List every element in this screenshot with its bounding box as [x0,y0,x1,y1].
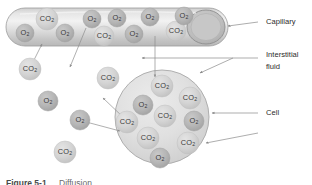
molecule-co2: CO2 [151,75,173,97]
diagram-canvas: CO2O2O2O2O2CO2O2O2CO2O2CO2O2CO2O2CO2CO2O… [0,0,312,185]
molecule-co2: CO2 [54,141,76,163]
molecule-o2: O2 [83,10,101,28]
leader-cell-co2 [206,133,258,143]
label-capillary: Capillary [266,17,296,26]
molecule-o2: O2 [175,7,193,25]
molecule-co2: CO2 [97,67,119,89]
capillary-lumen [191,14,221,41]
molecule-o2: O2 [141,8,159,26]
molecule-o2: O2 [150,148,170,168]
molecule-o2: O2 [38,91,58,111]
molecule-o2: O2 [125,25,143,43]
figure-caption-note: Diffusion [49,178,92,185]
molecule-co2: CO2 [94,26,114,46]
molecule-co2: CO2 [19,58,41,80]
figure-caption: Figure 5-1 Diffusion [6,178,156,185]
molecule-o2: O2 [184,111,204,131]
molecule-co2: CO2 [179,87,201,109]
label-layer: Capillary Interstitial fluid Cell [266,17,299,117]
molecule-o2: O2 [133,95,153,115]
molecule-co2: CO2 [154,105,176,127]
molecule-o2: O2 [108,9,126,27]
leader-interstitial-fluid-branch [200,58,233,73]
label-cell: Cell [266,108,279,117]
molecule-co2: CO2 [36,8,58,30]
label-interstitial-fluid-line2: fluid [266,62,280,71]
leader-capillary [228,22,258,26]
figure-caption-clip: Figure 5-1 Diffusion [6,178,156,185]
molecule-o2: O2 [56,24,74,42]
molecule-co2: CO2 [137,127,159,149]
molecule-co2: CO2 [116,111,138,133]
gas-exchange-figure: CO2O2O2O2O2CO2O2O2CO2O2CO2O2CO2O2CO2CO2O… [0,0,312,185]
molecule-co2: CO2 [177,132,199,154]
molecule-o2: O2 [16,24,34,42]
label-interstitial-fluid-line1: Interstitial [266,50,299,59]
figure-caption-number: Figure 5-1 [6,178,47,185]
molecule-o2: O2 [70,110,90,130]
